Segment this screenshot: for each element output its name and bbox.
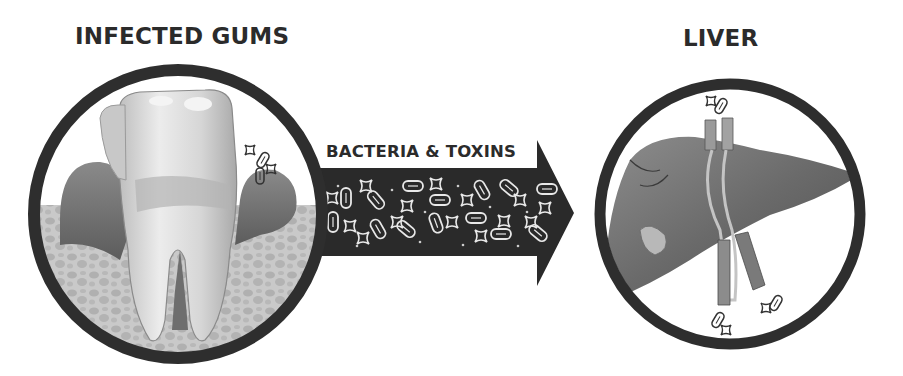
liver-illustration (600, 84, 860, 344)
bacteria-toxins-label: BACTERIA & TOXINS (326, 142, 516, 161)
infected-gums-illustration (30, 69, 330, 375)
bacteria-arrow (300, 139, 574, 286)
